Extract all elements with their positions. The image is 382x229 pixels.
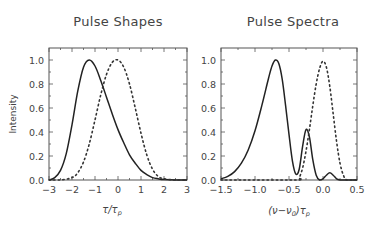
x-tick-label: 1 bbox=[138, 184, 144, 195]
pulse-shapes-dotted-curve bbox=[49, 60, 187, 180]
y-tick-label: 0.0 bbox=[201, 175, 216, 186]
pulse-chart-figure: Pulse Shapes −3−2−101230.00.20.40.60.81.… bbox=[0, 0, 382, 229]
pulse-shapes-ticks: −3−2−101230.00.20.40.60.81.0 bbox=[29, 48, 190, 195]
y-axis-label: Intensity bbox=[8, 94, 18, 134]
pulse-spectra-panel: Pulse Spectra −1.5−1.0−0.50.00.50.00.20.… bbox=[201, 14, 365, 218]
x-tick-label: 0 bbox=[115, 184, 121, 195]
y-tick-label: 1.0 bbox=[201, 55, 216, 66]
y-tick-label: 0.8 bbox=[29, 79, 44, 90]
y-tick-label: 0.0 bbox=[29, 175, 44, 186]
pulse-spectra-x-axis-label: (ν−ν0)τp bbox=[268, 205, 310, 218]
x-tick-label: 0.0 bbox=[315, 184, 330, 195]
pulse-shapes-title: Pulse Shapes bbox=[73, 14, 162, 29]
pulse-spectra-axes-frame bbox=[221, 48, 357, 180]
pulse-shapes-solid-curve bbox=[49, 60, 187, 180]
x-tick-label: −0.5 bbox=[277, 184, 300, 195]
pulse-spectra-title: Pulse Spectra bbox=[247, 14, 339, 29]
pulse-shapes-panel: Pulse Shapes −3−2−101230.00.20.40.60.81.… bbox=[8, 14, 190, 217]
y-tick-label: 0.4 bbox=[201, 127, 216, 138]
x-tick-label: −1.0 bbox=[243, 184, 266, 195]
y-tick-label: 0.2 bbox=[201, 151, 216, 162]
x-tick-label: 3 bbox=[184, 184, 190, 195]
x-tick-label: 2 bbox=[161, 184, 167, 195]
x-tick-label: −1 bbox=[88, 184, 102, 195]
pulse-shapes-x-axis-label: τ/τp bbox=[102, 204, 122, 217]
x-tick-label: 0.5 bbox=[349, 184, 364, 195]
y-tick-label: 1.0 bbox=[29, 55, 44, 66]
y-tick-label: 0.4 bbox=[29, 127, 44, 138]
pulse-shapes-axes-frame bbox=[49, 48, 187, 180]
x-tick-label: −1.5 bbox=[209, 184, 232, 195]
x-tick-label: −3 bbox=[42, 184, 56, 195]
pulse-spectra-solid-curve bbox=[221, 60, 357, 180]
y-tick-label: 0.8 bbox=[201, 79, 216, 90]
x-tick-label: −2 bbox=[65, 184, 79, 195]
y-tick-label: 0.2 bbox=[29, 151, 44, 162]
y-tick-label: 0.6 bbox=[201, 103, 216, 114]
y-tick-label: 0.6 bbox=[29, 103, 44, 114]
pulse-spectra-ticks: −1.5−1.0−0.50.00.50.00.20.40.60.81.0 bbox=[201, 48, 365, 195]
